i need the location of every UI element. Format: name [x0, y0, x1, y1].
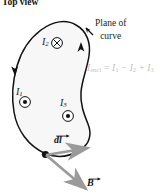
b-vector-symbol: B: [87, 177, 94, 188]
b-field-vector-label: B: [87, 177, 94, 188]
figure-title: Top view: [2, 0, 38, 8]
dl-vector-symbol: dl: [54, 134, 62, 145]
dl-vector-label: dl: [54, 134, 62, 145]
current-marker-i3: [63, 111, 74, 122]
term-2-subscript: 2: [133, 66, 136, 73]
term-1-subscript: 1: [115, 66, 118, 73]
current-marker-i1: [20, 97, 31, 108]
equation-sign-3: +: [138, 63, 144, 73]
current-marker-i2: [52, 38, 63, 49]
current-label-i3: I3: [60, 97, 67, 109]
equation-sign-2: −: [121, 63, 127, 73]
plane-of-curve-line-1: Plane of: [95, 17, 126, 30]
plane-of-curve-label: Plane of curve: [95, 17, 126, 42]
diagram-canvas: [0, 0, 168, 195]
figure-top-view: Top view Plane of curve Iencl = I1 − I2 …: [0, 0, 168, 195]
equation-term-3: I3: [147, 63, 153, 73]
current-label-i1: I1: [16, 86, 23, 98]
enclosed-current-equation: Iencl = I1 − I2 + I3: [87, 63, 154, 74]
equation-equals: =: [103, 63, 109, 73]
dl-vector-label-wrap: dl: [54, 134, 62, 145]
plane-of-curve-line-2: curve: [95, 30, 126, 43]
current-label-i3-subscript: 3: [63, 101, 66, 108]
equation-lhs: Iencl: [87, 63, 101, 73]
plane-of-curve-leader: [86, 28, 93, 35]
b-vector-label-wrap: B: [87, 177, 94, 188]
equation-lhs-subscript: encl: [90, 66, 101, 73]
equation-term-1: I1: [112, 63, 118, 73]
current-label-i2: I2: [42, 36, 49, 48]
term-3-subscript: 3: [150, 66, 153, 73]
b-field-vector-arrow: [46, 155, 86, 189]
current-label-i2-subscript: 2: [45, 40, 48, 47]
current-label-i1-subscript: 1: [19, 90, 22, 97]
equation-term-2: I2: [130, 63, 136, 73]
